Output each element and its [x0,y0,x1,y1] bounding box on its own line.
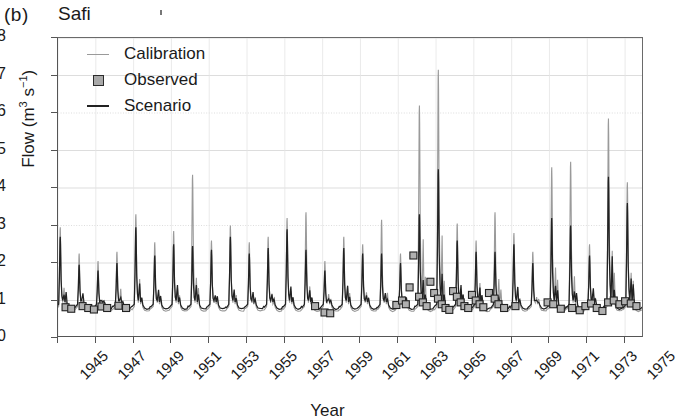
observed-marker [90,306,97,313]
x-tick [322,337,323,343]
observed-marker [557,305,564,312]
y-tick-label: 8 [0,28,6,44]
panel-label: (b) [4,4,29,26]
legend-label-observed: Observed [116,67,198,93]
legend-item-observed: Observed [80,67,205,93]
x-tick-label: 1975 [643,347,679,383]
observed-marker [446,306,453,313]
observed-marker [465,305,472,312]
y-tick-label: 0 [0,328,6,344]
x-tick-label: 1947 [114,347,150,383]
scenario-line-icon [80,105,116,107]
observed-marker [423,303,430,310]
x-tick-label: 1965 [454,347,490,383]
x-tick-label: 1961 [378,347,414,383]
x-tick [473,337,474,343]
y-axis-label: Flow (m3 s−1) [17,39,39,199]
x-tick [95,337,96,343]
observed-marker [410,252,417,259]
observed-marker [480,304,487,311]
observed-marker [327,310,334,317]
y-tick-label: 4 [0,178,6,194]
y-tick-label: 7 [0,66,6,82]
series-scenario-line [58,169,642,309]
x-tick-label: 1959 [340,347,376,383]
x-tick-label: 1953 [227,347,263,383]
legend-label-calibration: Calibration [116,41,205,67]
x-tick-label: 1949 [151,347,187,383]
legend-label-scenario: Scenario [116,93,191,119]
x-tick [397,337,398,343]
x-tick [208,337,209,343]
x-tick [246,337,247,343]
observed-marker [501,305,508,312]
y-tick-label: 1 [0,291,6,307]
calibration-line-icon [80,54,116,55]
observed-marker [599,308,606,315]
x-tick-label: 1971 [567,347,603,383]
x-axis-label: Year [0,401,655,419]
x-tick [548,337,549,343]
observed-square-icon [80,75,116,86]
x-tick-label: 1973 [605,347,641,383]
observed-marker [427,278,434,285]
observed-marker [512,303,519,310]
observed-marker [312,303,319,310]
x-tick [586,337,587,343]
x-tick-label: 1967 [492,347,528,383]
y-tick-label: 3 [0,216,6,232]
chart-title: Safi [58,3,91,25]
x-tick [511,337,512,343]
legend-item-calibration: Calibration [80,41,205,67]
x-tick [133,337,134,343]
observed-marker [402,301,409,308]
x-tick [435,337,436,343]
x-tick [359,337,360,343]
observed-marker [633,303,640,310]
x-tick [284,337,285,343]
y-tick-label: 5 [0,141,6,157]
observed-marker [123,305,130,312]
x-tick-label: 1945 [76,347,112,383]
x-tick [170,337,171,343]
y-tick-label: 6 [0,103,6,119]
observed-marker [68,305,75,312]
stray-mark [160,10,162,15]
x-tick [624,337,625,343]
legend: Calibration Observed Scenario [80,41,205,119]
observed-marker [104,305,111,312]
x-tick [57,337,58,343]
observed-marker [550,301,557,308]
observed-marker [569,305,576,312]
y-tick-label: 2 [0,253,6,269]
x-tick-label: 1969 [529,347,565,383]
observed-marker [406,284,413,291]
x-tick-label: 1957 [303,347,339,383]
legend-item-scenario: Scenario [80,93,205,119]
x-tick-label: 1955 [265,347,301,383]
observed-marker [115,302,122,309]
x-tick-label: 1951 [189,347,225,383]
x-tick-label: 1963 [416,347,452,383]
